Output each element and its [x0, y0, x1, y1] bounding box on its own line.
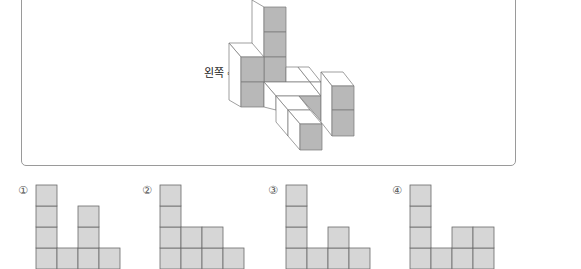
- option-number[interactable]: ③: [268, 184, 278, 197]
- option-number[interactable]: ④: [392, 184, 402, 197]
- cube-face: [332, 110, 354, 136]
- view-square: [78, 206, 99, 227]
- view-square: [78, 227, 99, 248]
- view-square: [36, 185, 57, 206]
- cube-face: [264, 32, 286, 57]
- option-number[interactable]: ①: [18, 184, 28, 197]
- view-square: [328, 227, 349, 248]
- option-number[interactable]: ②: [142, 184, 152, 197]
- view-square: [286, 227, 307, 248]
- view-square: [452, 227, 473, 248]
- view-square: [410, 248, 431, 269]
- isometric-cube-figure: [0, 0, 581, 269]
- view-square: [160, 206, 181, 227]
- view-square: [202, 248, 223, 269]
- view-square: [452, 248, 473, 269]
- view-square: [286, 248, 307, 269]
- view-square: [57, 248, 78, 269]
- view-square: [202, 227, 223, 248]
- view-square: [286, 206, 307, 227]
- cube-face: [241, 82, 264, 107]
- cube-face: [241, 57, 264, 82]
- view-square: [181, 248, 202, 269]
- answer-option-4[interactable]: [410, 185, 494, 269]
- cube-face: [264, 57, 286, 82]
- view-square: [410, 185, 431, 206]
- cube-face: [264, 7, 286, 32]
- cube-face: [332, 86, 354, 110]
- view-square: [410, 227, 431, 248]
- view-square: [410, 206, 431, 227]
- view-square: [99, 248, 120, 269]
- view-square: [431, 248, 452, 269]
- view-square: [473, 248, 494, 269]
- view-square: [36, 206, 57, 227]
- view-square: [286, 185, 307, 206]
- view-square: [181, 227, 202, 248]
- view-square: [473, 227, 494, 248]
- view-square: [78, 248, 99, 269]
- view-square: [36, 248, 57, 269]
- view-square: [160, 185, 181, 206]
- view-square: [307, 248, 328, 269]
- cube-face: [300, 124, 322, 150]
- view-square: [328, 248, 349, 269]
- view-square: [160, 248, 181, 269]
- answer-option-3[interactable]: [286, 185, 370, 269]
- view-square: [160, 227, 181, 248]
- answer-option-1[interactable]: [36, 185, 120, 269]
- view-square: [223, 248, 244, 269]
- view-square: [36, 227, 57, 248]
- answer-option-2[interactable]: [160, 185, 244, 269]
- view-square: [349, 248, 370, 269]
